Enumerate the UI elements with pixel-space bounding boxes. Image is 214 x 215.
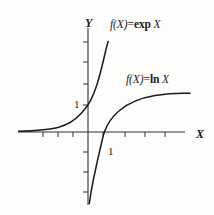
exp-label-function: f(X) — [110, 18, 127, 30]
x-axis-label: X — [196, 128, 204, 140]
graph-figure: Y X 1 1 f(X)=exp X f(X)=ln X — [0, 0, 214, 215]
ln-curve-label: f(X)=ln X — [126, 74, 169, 86]
ln-label-function: f(X) — [126, 73, 143, 85]
exp-label-variable: X — [154, 18, 161, 30]
y-axis-tick-label-one: 1 — [74, 99, 80, 110]
y-axis-ticks — [83, 42, 88, 192]
ln-label-variable: X — [162, 73, 169, 85]
exp-label-operator: exp — [134, 18, 151, 30]
ln-label-operator: ln — [150, 73, 159, 85]
ln-curve — [89, 93, 190, 203]
y-axis-label: Y — [85, 17, 92, 29]
plot-canvas — [0, 0, 214, 215]
exp-curve-label: f(X)=exp X — [110, 19, 161, 31]
exp-curve — [19, 42, 109, 132]
x-axis-tick-label-one: 1 — [108, 146, 114, 157]
